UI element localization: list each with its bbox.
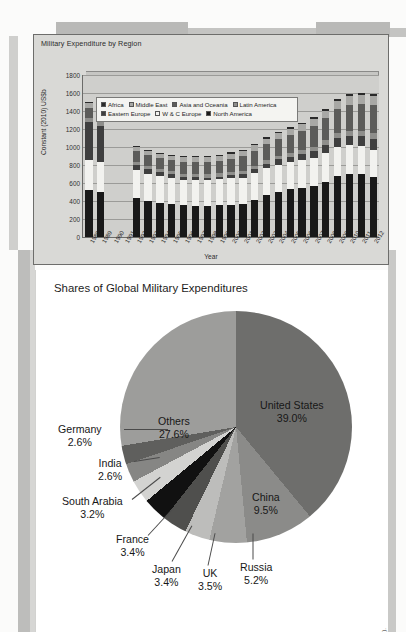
legend-item: W & C Europe	[155, 109, 201, 118]
stacked-bar	[275, 132, 282, 237]
pie-slice-name: China	[252, 491, 280, 504]
bar-segment	[346, 105, 353, 131]
pie-slice-label: Japan3.4%	[152, 563, 181, 588]
bar-segment	[192, 180, 199, 206]
bar-segment	[133, 198, 140, 237]
pie-slice-value: 9.5%	[252, 504, 280, 517]
stacked-bar	[85, 102, 92, 237]
bar-segment	[358, 95, 365, 104]
y-axis-tick-label: 800	[69, 162, 80, 169]
pie-chart-title: Shares of Global Military Expenditures	[54, 282, 248, 294]
stacked-bar	[180, 156, 187, 237]
bar-chart-x-axis-label: Year	[34, 253, 388, 260]
legend-item: Asia and Oceania	[172, 100, 227, 109]
stacked-bar	[204, 156, 211, 237]
page-edge-shadow-left-top	[9, 36, 18, 250]
legend-item: Latin America	[233, 100, 277, 109]
bar-segment	[322, 153, 329, 181]
legend-item: Middle East	[129, 100, 168, 109]
bar-segment	[370, 96, 377, 105]
bar-segment	[144, 155, 151, 166]
bar-segment	[216, 161, 223, 174]
pie-slice-value: 2.6%	[58, 436, 102, 449]
pie-slice-value: 5.2%	[240, 574, 272, 587]
bar-segment	[275, 139, 282, 156]
bar-segment	[144, 201, 151, 237]
stacked-bar	[287, 127, 294, 237]
legend-row: AfricaMiddle EastAsia and OceaniaLatin A…	[101, 100, 294, 109]
bar-segment	[298, 124, 305, 131]
bar-segment	[334, 147, 341, 176]
bar-segment	[180, 180, 187, 206]
y-axis-tick-label: 0	[76, 234, 80, 241]
bar-segment	[358, 104, 365, 131]
bar-segment	[192, 162, 199, 174]
page-edge-shadow-left	[18, 250, 30, 632]
stacked-bar	[227, 152, 234, 237]
bar-segment	[346, 174, 353, 237]
legend-item: Africa	[101, 100, 124, 109]
pie-slice-label: Russia5.2%	[240, 561, 272, 586]
pie-slice-value: 27.6%	[158, 428, 190, 441]
y-axis-tick-label: 200	[69, 215, 80, 222]
bar-group: 2011	[355, 75, 367, 237]
stacked-bar	[168, 155, 175, 237]
stacked-bar	[298, 123, 305, 237]
page-edge-shadow-right	[388, 250, 396, 632]
bar-segment	[156, 158, 163, 169]
legend-label: Africa	[108, 100, 124, 109]
bar-segment	[322, 118, 329, 140]
bar-segment	[216, 205, 223, 236]
bar-segment	[239, 204, 246, 237]
bar-segment	[310, 126, 317, 147]
bar-chart-panel: Military Expenditure by Region Constant …	[33, 34, 389, 265]
bar-segment	[346, 136, 353, 145]
legend-item: Eastern Europe	[101, 109, 150, 118]
bar-segment	[251, 173, 258, 200]
bar-segment	[144, 174, 151, 201]
bar-segment	[298, 188, 305, 237]
legend-label: Eastern Europe	[108, 109, 150, 118]
bar-segment	[334, 101, 341, 109]
stacked-bar	[370, 94, 377, 237]
pie-slice-value: 3.5%	[198, 580, 222, 593]
bar-segment	[85, 108, 92, 119]
bar-segment	[370, 139, 377, 150]
bar-segment	[85, 160, 92, 190]
legend-label: North America	[213, 109, 252, 118]
bar-segment	[251, 151, 258, 166]
pie-slice-value: 3.2%	[62, 508, 123, 521]
bar-segment	[334, 109, 341, 133]
pie-slice-value: 39.0%	[260, 412, 324, 425]
pie-slice-name: France	[116, 533, 149, 546]
bar-segment	[370, 177, 377, 237]
stacked-bar	[334, 99, 341, 237]
pie-label-leader-line	[253, 534, 254, 560]
bar-segment	[310, 158, 317, 186]
legend-label: Middle East	[136, 100, 168, 109]
pie-slice-name: Russia	[240, 561, 272, 574]
stacked-bar	[263, 137, 270, 237]
pie-slice-label: India2.6%	[98, 457, 122, 482]
pie-slice-label: France3.4%	[116, 533, 149, 558]
bar-segment	[251, 200, 258, 237]
stacked-bar	[144, 150, 151, 237]
bar-segment	[275, 165, 282, 192]
legend-swatch-icon	[101, 102, 106, 107]
bar-group: 2008	[320, 75, 332, 237]
bar-segment	[346, 145, 353, 174]
y-axis-tick-label: 600	[69, 180, 80, 187]
pie-slice-name: Japan	[152, 563, 181, 576]
pie-slice-value: 3.4%	[152, 576, 181, 589]
stacked-bar	[251, 144, 258, 237]
legend-label: W & C Europe	[162, 109, 201, 118]
bar-segment	[334, 176, 341, 237]
pie-slice-value: 3.4%	[116, 546, 149, 559]
bar-segment	[322, 182, 329, 237]
legend-label: Latin America	[240, 100, 277, 109]
bar-segment	[370, 150, 377, 177]
stacked-bar	[239, 150, 246, 237]
bar-segment	[133, 151, 140, 162]
bar-segment	[168, 160, 175, 172]
stacked-bar	[192, 156, 199, 237]
